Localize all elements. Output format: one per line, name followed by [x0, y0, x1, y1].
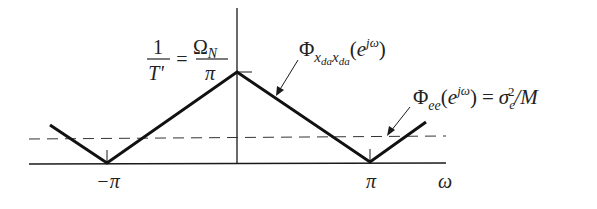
horizontal-axis — [29, 163, 446, 164]
signal-arrow — [279, 60, 298, 91]
peak-rhs-denominator: π — [205, 62, 216, 84]
signal-spectrum-label: Φxdaxda(ejω) — [299, 35, 386, 67]
peak-lhs-numerator: 1 — [153, 36, 163, 58]
omega-axis-label: ω — [438, 170, 452, 192]
noise-arrow — [391, 107, 410, 131]
peak-equals: = — [176, 48, 187, 70]
pi-label: π — [366, 170, 377, 192]
peak-lhs-denominator: T' — [148, 62, 164, 84]
neg-pi-label: −π — [96, 170, 120, 192]
signal-arrowhead-icon — [276, 86, 284, 96]
psd-diagram: 1 T' = ΩN π Φxdaxda(ejω) Φee(ejω)=σe2/M … — [0, 0, 597, 209]
peak-label: 1 T' = ΩN π — [147, 36, 228, 84]
noise-spectrum-label: Φee(ejω)=σe2/M — [413, 83, 539, 113]
peak-rhs-numerator: ΩN — [193, 36, 218, 61]
